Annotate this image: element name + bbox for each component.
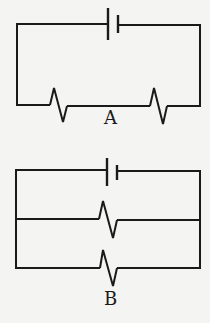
circuit-b-resistor-middle [99, 201, 117, 238]
circuit-diagram-canvas: A B [0, 0, 210, 323]
circuit-a-resistor-2 [150, 88, 167, 124]
circuit-b-resistor-bottom [100, 250, 117, 286]
circuit-a: A [17, 8, 200, 128]
circuit-b-battery-icon [107, 158, 117, 186]
circuit-a-top-wire-left [17, 24, 108, 105]
circuit-a-right-wire [118, 25, 200, 106]
circuit-a-resistor-1 [50, 88, 67, 122]
circuit-b: B [16, 158, 200, 309]
circuit-a-label: A [103, 107, 118, 128]
circuit-a-battery-icon [108, 8, 118, 40]
circuit-b-label: B [104, 288, 117, 309]
